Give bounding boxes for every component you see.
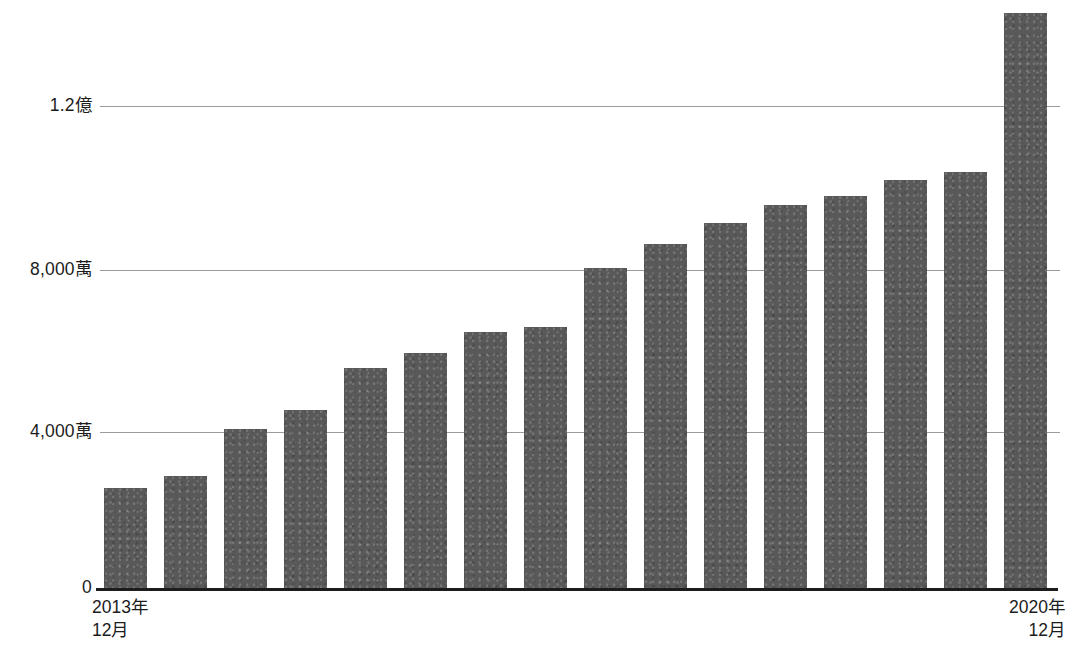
bar-3[interactable] xyxy=(284,410,327,588)
bar-11[interactable] xyxy=(764,205,807,588)
y-tick-label-40m: 4,000萬 xyxy=(30,423,92,441)
bar-5[interactable] xyxy=(404,353,447,588)
x-tick-label-start: 2013年 12月 xyxy=(92,596,148,642)
bar-15[interactable] xyxy=(1004,13,1047,588)
bar-7[interactable] xyxy=(524,327,567,588)
bar-12[interactable] xyxy=(824,196,867,588)
x-tick-label-end-month: 12月 xyxy=(1009,619,1065,642)
x-tick-label-end-year: 2020年 xyxy=(1009,597,1065,617)
plot-area xyxy=(100,0,1060,589)
bar-1[interactable] xyxy=(164,476,207,588)
bar-4[interactable] xyxy=(344,368,387,588)
bar-9[interactable] xyxy=(644,244,687,588)
bars-layer xyxy=(100,0,1060,589)
bar-10[interactable] xyxy=(704,223,747,588)
y-tick-label-120m: 1.2億 xyxy=(50,97,92,115)
bar-chart: 1.2億 8,000萬 4,000萬 0 2013年 12月 2020年 12月 xyxy=(0,0,1081,668)
bar-2[interactable] xyxy=(224,429,267,588)
x-tick-label-start-year: 2013年 xyxy=(92,597,148,617)
y-axis-labels: 1.2億 8,000萬 4,000萬 0 xyxy=(0,0,92,589)
y-tick-label-0: 0 xyxy=(82,579,92,597)
bar-0[interactable] xyxy=(104,488,147,588)
bar-14[interactable] xyxy=(944,172,987,588)
bar-6[interactable] xyxy=(464,332,507,588)
x-axis-line xyxy=(96,588,1058,591)
x-tick-label-end: 2020年 12月 xyxy=(1009,596,1065,642)
y-tick-label-80m: 8,000萬 xyxy=(30,261,92,279)
bar-13[interactable] xyxy=(884,180,927,588)
bar-8[interactable] xyxy=(584,268,627,588)
x-tick-label-start-month: 12月 xyxy=(92,619,148,642)
